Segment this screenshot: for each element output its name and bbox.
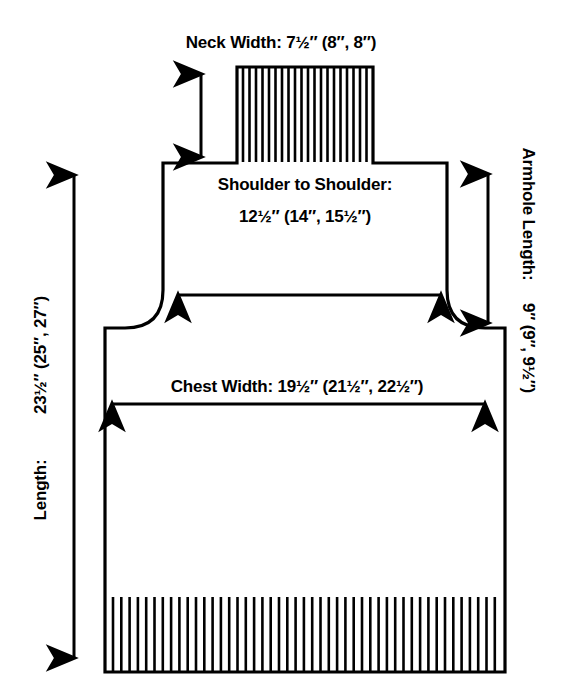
length-label: Length: (31, 460, 50, 521)
armhole-length-value: 9″ (9″, 9½″) (519, 303, 538, 393)
chest-width-label: Chest Width: 19½″ (21½″, 22½″) (171, 377, 424, 396)
shoulder-to-shoulder-value: 12½″ (14″, 15½″) (239, 207, 371, 226)
schematic-svg: Neck Width: 7½″ (8″, 8″) Shoulder to Sho… (0, 0, 563, 700)
hem-ribbing (113, 597, 495, 671)
garment-body-outline (105, 67, 505, 672)
shoulder-to-shoulder-label: Shoulder to Shoulder: (218, 175, 392, 194)
neck-width-label: Neck Width: 7½″ (8″, 8″) (186, 33, 376, 52)
garment-schematic-diagram: Neck Width: 7½″ (8″, 8″) Shoulder to Sho… (0, 0, 563, 700)
length-value: 23½″ (25″, 27″) (31, 296, 50, 414)
armhole-length-label: Armhole Length: (519, 148, 538, 281)
